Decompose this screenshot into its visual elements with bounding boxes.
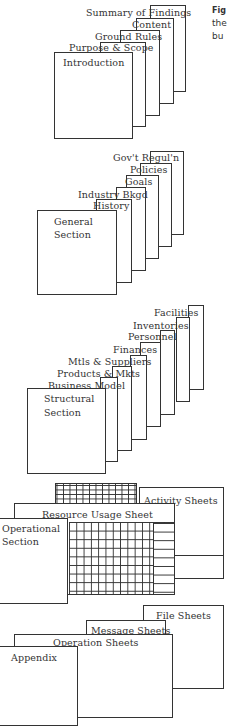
resource-usage-grid-mask (153, 523, 174, 594)
figure-caption: Fig the bu (212, 4, 227, 43)
structural-label-line1: Structural (44, 393, 95, 404)
activity-divider (173, 555, 223, 556)
appendix-front-page: Appendix (0, 646, 78, 726)
operational-label-line1: Operational (2, 523, 60, 534)
back-grid-sheet (55, 483, 137, 505)
tab-label-content: Content (132, 19, 171, 30)
structural-front-page: Structural Section (27, 388, 106, 474)
tab-page-personnel (160, 330, 175, 415)
introduction-label: Introduction (63, 57, 124, 68)
tab-label-industry-bkgd: Industry Bkgd (78, 189, 148, 200)
tab-label-finances: Finances (113, 344, 157, 355)
tab-label-goals: Goals (125, 176, 152, 187)
tab-label-govt-regul: Gov't Regul'n (113, 152, 179, 163)
operational-label-line2: Section (2, 536, 39, 547)
tab-label-facilities: Facilities (154, 307, 198, 318)
tab-label-policies: Policies (130, 164, 167, 175)
caption-line-1: Fig (212, 4, 227, 17)
structural-label-line2: Section (44, 407, 81, 418)
caption-line-2: the (212, 17, 227, 30)
tab-label-ground-rules: Ground Rules (95, 31, 162, 42)
caption-line-3: bu (212, 30, 227, 43)
tab-label-inventories: Inventories (133, 320, 189, 331)
general-front-page: General Section (37, 210, 117, 295)
tab-label-personnel: Personnel (128, 331, 177, 342)
general-label-line2: Section (54, 229, 91, 240)
general-label-line1: General (54, 216, 93, 227)
tab-label-summary-of-findings: Summary of Findings (86, 7, 191, 18)
appendix-label: Appendix (11, 652, 57, 663)
tab-label-mtls-suppliers: Mtls & Suppliers (68, 356, 151, 367)
operational-front-page: Operational Section (0, 518, 68, 604)
tab-label-products-mkts: Products & Mkts (57, 368, 140, 379)
introduction-front-page: Introduction (54, 52, 133, 139)
